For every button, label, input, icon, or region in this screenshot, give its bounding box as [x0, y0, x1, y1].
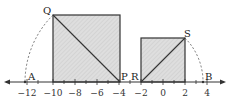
- label-Q: Q: [43, 5, 51, 16]
- arrow-left-icon: [4, 80, 10, 85]
- tick-label: 0: [160, 88, 166, 98]
- point-A-marker: [24, 81, 26, 83]
- label-A: A: [27, 71, 36, 82]
- diagram-canvas: −12 −10 −8 −6 −4 −2 0 2 4 Q A P R S B: [0, 0, 233, 103]
- tick-label: −2: [134, 88, 147, 98]
- tick-label: −12: [18, 88, 37, 98]
- label-R: R: [131, 71, 139, 82]
- arrow-right-icon: [220, 80, 226, 85]
- tick-label: 4: [204, 88, 210, 98]
- tick-label: −6: [90, 88, 104, 98]
- tick-label: −4: [112, 88, 126, 98]
- tick-label: −10: [44, 88, 63, 98]
- tick-label: 2: [182, 88, 188, 98]
- arc-S-to-B: [185, 38, 203, 82]
- tick-label: −8: [68, 88, 82, 98]
- label-P: P: [121, 71, 128, 82]
- label-S: S: [184, 28, 191, 39]
- point-B-marker: [202, 81, 204, 83]
- label-B: B: [205, 71, 212, 82]
